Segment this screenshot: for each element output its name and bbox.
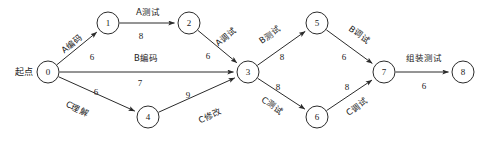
node-label-7: 7 <box>382 67 387 77</box>
node-8[interactable]: 8 <box>452 61 474 83</box>
edge-name-1-2: A测试 <box>136 7 160 17</box>
edge-weight-2-3: 6 <box>206 51 211 61</box>
node-label-2: 2 <box>187 18 192 28</box>
edge-weight-1-2: 8 <box>139 31 144 41</box>
edge-name-6-7: C调试 <box>344 96 369 118</box>
node-label-3: 3 <box>246 67 251 77</box>
edge-name-0-3: B编码 <box>134 53 158 63</box>
edge-weight-3-5: 8 <box>280 52 285 62</box>
edge-name-2-3: A调试 <box>213 25 238 48</box>
diagram-canvas: 012345678 A编码6A测试8A调试6B编码7C理解6C修改9B测试8B调… <box>0 0 488 141</box>
start-point-label: 起点 <box>15 67 33 77</box>
edge-weight-7-8: 6 <box>422 81 427 91</box>
node-5[interactable]: 5 <box>306 12 328 34</box>
edge-weight-4-3: 9 <box>186 90 191 100</box>
edge-name-5-7: B调试 <box>347 24 372 46</box>
node-label-8: 8 <box>461 67 466 77</box>
aoe-network-graph: 012345678 A编码6A测试8A调试6B编码7C理解6C修改9B测试8B调… <box>0 0 488 141</box>
node-4[interactable]: 4 <box>137 106 159 128</box>
node-7[interactable]: 7 <box>373 61 395 83</box>
edge-weight-0-1: 6 <box>90 52 95 62</box>
node-label-4: 4 <box>146 112 151 122</box>
edge-name-7-8: 组装测试 <box>406 53 442 63</box>
edge-name-3-6: C测试 <box>260 95 285 117</box>
edge-weight-5-7: 6 <box>342 52 347 62</box>
node-1[interactable]: 1 <box>97 12 119 34</box>
node-6[interactable]: 6 <box>306 106 328 128</box>
node-3[interactable]: 3 <box>237 61 259 83</box>
edge-weight-0-4: 6 <box>94 87 99 97</box>
edge-name-4-3: C修改 <box>197 106 223 125</box>
node-label-0: 0 <box>46 67 51 77</box>
edge-4-to-3 <box>158 78 234 112</box>
edge-weight-6-7: 8 <box>345 82 350 92</box>
node-2[interactable]: 2 <box>178 12 200 34</box>
edge-name-0-4: C理解 <box>64 99 90 118</box>
edge-name-3-5: B测试 <box>257 24 282 46</box>
node-label-1: 1 <box>106 18 111 28</box>
node-0[interactable]: 0 <box>37 61 59 83</box>
nodes-layer: 012345678 <box>37 12 474 128</box>
edge-weight-0-3: 7 <box>138 78 143 88</box>
node-label-6: 6 <box>315 112 320 122</box>
edge-name-0-1: A编码 <box>59 32 84 55</box>
edge-weight-3-6: 8 <box>276 82 281 92</box>
node-label-5: 5 <box>315 18 320 28</box>
